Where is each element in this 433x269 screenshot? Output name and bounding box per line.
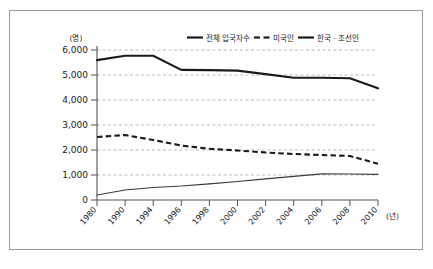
y-tick-label: 4,000 [62, 95, 88, 105]
chart-figure: (명) 6,000 5,000 4,000 3,000 2,000 1,000 … [0, 0, 433, 269]
series-line-koreans [97, 174, 378, 195]
line-chart: (명) 6,000 5,000 4,000 3,000 2,000 1,000 … [0, 0, 433, 269]
y-tick-label: 3,000 [62, 120, 88, 130]
x-tick-labels: 1980 1990 1994 1996 1998 2000 2002 2004 … [78, 205, 379, 226]
y-tick-label: 2,000 [62, 145, 88, 155]
y-tick-label: 1,000 [62, 170, 88, 180]
x-tick-label: 2002 [247, 205, 267, 226]
x-tick-label: 2010 [359, 205, 379, 226]
y-tick-marks [91, 50, 97, 200]
series-line-total-entries [97, 56, 378, 89]
x-tick-marks [97, 200, 378, 206]
x-tick-label: 1996 [162, 205, 182, 226]
legend-label-koreans: 한국 · 조선인 [317, 33, 359, 43]
x-tick-label: 1980 [78, 205, 98, 226]
x-tick-label: 1998 [191, 205, 211, 226]
y-tick-label: 5,000 [62, 70, 88, 80]
x-tick-label: 2006 [303, 205, 323, 226]
x-tick-label: 1994 [134, 205, 154, 226]
x-tick-label: 2004 [275, 205, 295, 226]
x-tick-label: 2008 [331, 205, 351, 226]
legend-label-total-entries: 전체 입국자수 [206, 33, 250, 43]
legend-label-americans: 미국인 [273, 33, 294, 43]
y-tick-label: 0 [82, 195, 88, 205]
x-tick-label: 1990 [106, 205, 126, 226]
y-tick-label: 6,000 [62, 45, 88, 55]
chart-legend: 전체 입국자수 미국인 한국 · 조선인 [187, 33, 359, 43]
y-axis-unit-label: (명) [70, 33, 83, 43]
x-axis-unit-label: (년) [386, 211, 399, 221]
y-tick-labels: 6,000 5,000 4,000 3,000 2,000 1,000 0 [62, 45, 88, 205]
series-line-americans [97, 135, 378, 164]
x-tick-label: 2000 [219, 205, 239, 226]
